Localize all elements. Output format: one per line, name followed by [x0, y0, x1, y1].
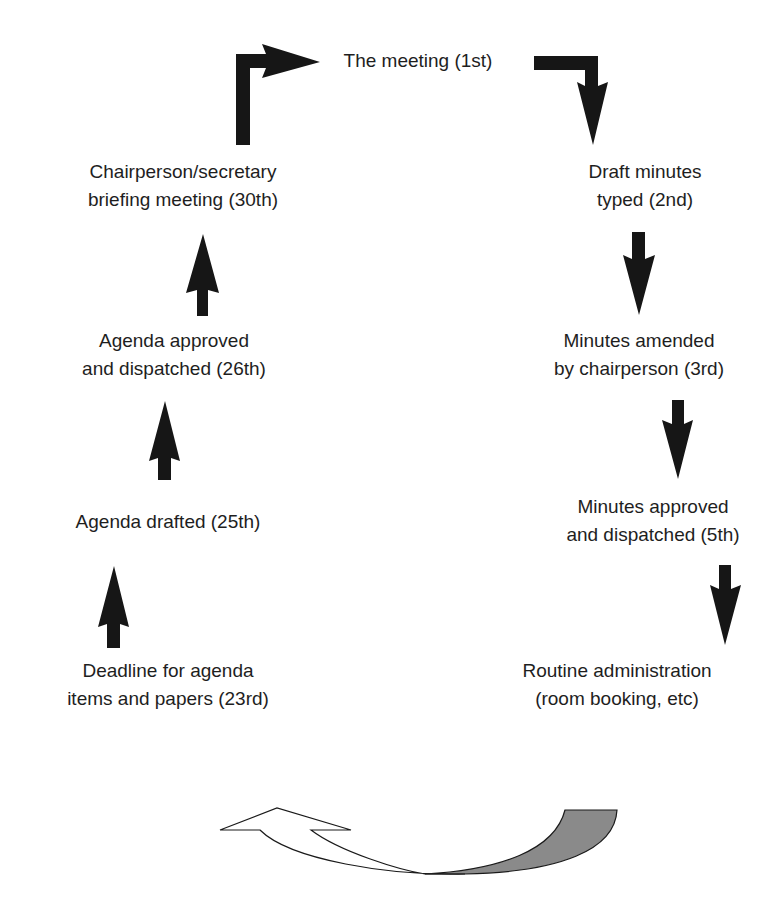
node-label: by chairperson (3rd)	[554, 355, 724, 383]
node-briefing: Chairperson/secretary briefing meeting (…	[88, 158, 278, 214]
node-label: The meeting (1st)	[344, 47, 493, 75]
node-routine-admin: Routine administration (room booking, et…	[522, 657, 711, 713]
node-agenda-approved: Agenda approved and dispatched (26th)	[82, 327, 266, 383]
node-label: Minutes approved	[566, 493, 739, 521]
node-label: typed (2nd)	[589, 186, 702, 214]
node-label: items and papers (23rd)	[67, 685, 269, 713]
arrow-down-icon	[710, 565, 741, 645]
node-label: and dispatched (5th)	[566, 521, 739, 549]
arrows-layer	[0, 0, 777, 921]
node-agenda-drafted: Agenda drafted (25th)	[76, 508, 261, 536]
node-draft-minutes: Draft minutes typed (2nd)	[589, 158, 702, 214]
bent-arrow-down-icon	[534, 56, 608, 145]
node-label: Routine administration	[522, 657, 711, 685]
node-minutes-amended: Minutes amended by chairperson (3rd)	[554, 327, 724, 383]
arrow-down-icon	[623, 232, 655, 315]
arrow-up-icon	[186, 234, 219, 316]
node-label: Agenda approved	[82, 327, 266, 355]
node-label: (room booking, etc)	[522, 685, 711, 713]
node-label: Draft minutes	[589, 158, 702, 186]
bent-arrow-right-icon	[236, 44, 320, 145]
node-label: briefing meeting (30th)	[88, 186, 278, 214]
node-deadline: Deadline for agenda items and papers (23…	[67, 657, 269, 713]
node-label: and dispatched (26th)	[82, 355, 266, 383]
node-label: Chairperson/secretary	[88, 158, 278, 186]
arrow-up-icon	[98, 566, 129, 648]
node-label: Deadline for agenda	[67, 657, 269, 685]
node-minutes-approved: Minutes approved and dispatched (5th)	[566, 493, 739, 549]
arrow-up-icon	[149, 401, 180, 480]
node-label: Minutes amended	[554, 327, 724, 355]
arrow-down-icon	[662, 400, 693, 479]
node-meeting: The meeting (1st)	[344, 47, 493, 75]
node-label: Agenda drafted (25th)	[76, 508, 261, 536]
cycle-arrow-icon	[220, 808, 617, 874]
